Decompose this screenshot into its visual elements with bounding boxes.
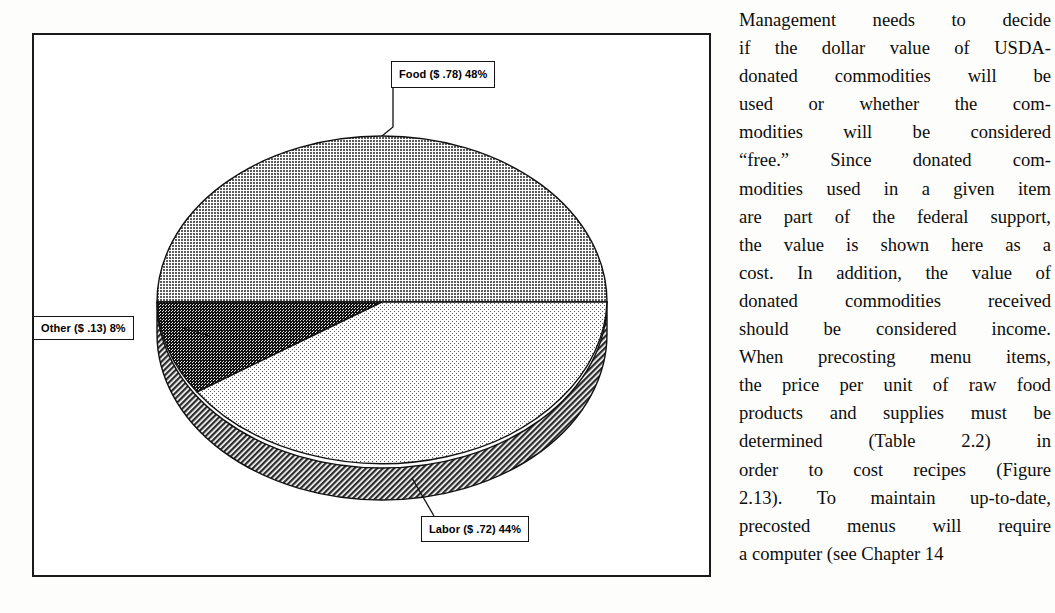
body-text-column: Managementneedstodecideifthedollarvalueo… xyxy=(739,6,1051,568)
callout-other: Other ($ .13) 8% xyxy=(33,316,134,340)
body-text-line: moditieswillbeconsidered xyxy=(739,118,1051,146)
body-text-line: Whenprecostingmenuitems, xyxy=(739,343,1051,371)
body-text-line: productsandsuppliesmustbe xyxy=(739,399,1051,427)
body-text-line: Managementneedstodecide xyxy=(739,6,1051,34)
body-text-line: donatedcommoditieswillbe xyxy=(739,62,1051,90)
body-text-line: 2.13).Tomaintainup-to-date, xyxy=(739,484,1051,512)
page-root: Food ($ .78) 48% Other ($ .13) 8% Labor … xyxy=(0,0,1055,613)
pie-chart-svg xyxy=(34,35,713,579)
body-text-line: a computer (see Chapter 14 xyxy=(739,540,1051,568)
body-text-line: thepriceperunitofrawfood xyxy=(739,371,1051,399)
body-text-line: cost.Inaddition,thevalueof xyxy=(739,259,1051,287)
body-text-line: usedorwhetherthecom- xyxy=(739,90,1051,118)
pie-chart: Food ($ .78) 48% Other ($ .13) 8% Labor … xyxy=(34,35,709,575)
pie-slice-food xyxy=(157,136,607,302)
body-text-line: determined(Table2.2)in xyxy=(739,427,1051,455)
body-text-line: “free.”Sincedonatedcom- xyxy=(739,146,1051,174)
body-text-line: ifthedollarvalueofUSDA- xyxy=(739,34,1051,62)
body-text-line: arepartofthefederalsupport, xyxy=(739,203,1051,231)
body-text-line: moditiesusedinagivenitem xyxy=(739,175,1051,203)
body-text-line: ordertocostrecipes(Figure xyxy=(739,456,1051,484)
body-text-line: precostedmenuswillrequire xyxy=(739,512,1051,540)
body-text-line: donatedcommoditiesreceived xyxy=(739,287,1051,315)
body-paragraph: Managementneedstodecideifthedollarvalueo… xyxy=(739,6,1051,568)
callout-labor: Labor ($ .72) 44% xyxy=(421,516,529,542)
figure-panel: Food ($ .78) 48% Other ($ .13) 8% Labor … xyxy=(32,33,711,577)
body-text-line: shouldbeconsideredincome. xyxy=(739,315,1051,343)
callout-food: Food ($ .78) 48% xyxy=(391,61,495,88)
body-text-line: thevalueisshownhereasa xyxy=(739,231,1051,259)
